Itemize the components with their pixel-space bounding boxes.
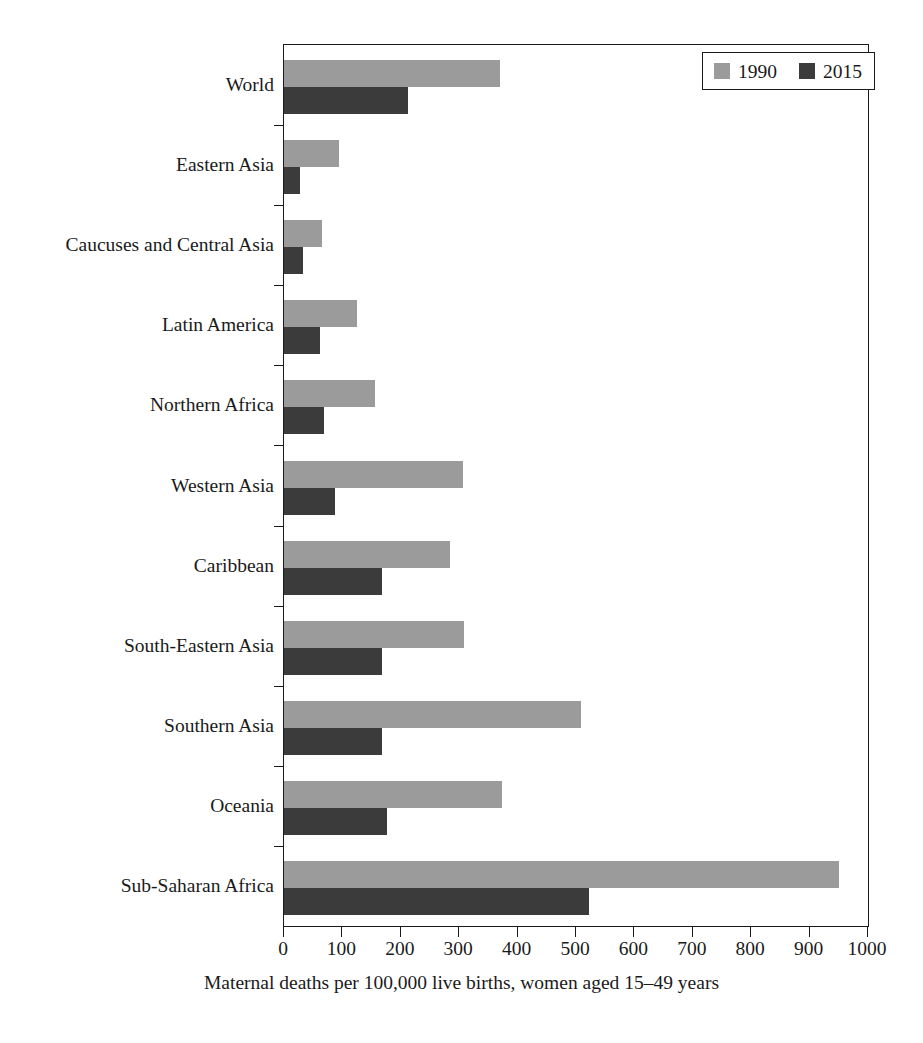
x-axis-tick [283, 927, 284, 937]
x-axis-tick [400, 927, 401, 937]
legend-entry-1990: 1990 [714, 62, 777, 81]
legend-entry-2015: 2015 [799, 62, 862, 81]
legend-swatch-2015 [799, 63, 815, 79]
x-axis-tick [750, 927, 751, 937]
maternal-mortality-bar-chart: WorldEastern AsiaCaucuses and Central As… [0, 0, 923, 1043]
x-axis-tick [575, 927, 576, 937]
legend-label-2015: 2015 [823, 62, 862, 81]
x-axis-tick [867, 927, 868, 937]
x-axis-title: Maternal deaths per 100,000 live births,… [0, 972, 923, 994]
x-axis-tick-label: 1000 [827, 938, 907, 960]
legend-label-1990: 1990 [738, 62, 777, 81]
x-axis-tick [517, 927, 518, 937]
x-axis-tick [458, 927, 459, 937]
legend-swatch-1990 [714, 63, 730, 79]
x-axis-tick [341, 927, 342, 937]
chart-legend: 1990 2015 [702, 52, 875, 90]
x-axis-tick [633, 927, 634, 937]
x-axis-tick [692, 927, 693, 937]
x-axis-tick [809, 927, 810, 937]
x-axis-ticks: 01002003004005006007008009001000 [0, 0, 923, 1043]
